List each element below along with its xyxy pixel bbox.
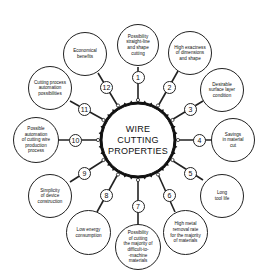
hub-title: WIRE CUTTING PROPERTIES <box>108 124 168 157</box>
property-bubble-4: Savings in material cut <box>211 118 255 162</box>
property-bubble-9: Simplicity of device construction <box>28 174 72 218</box>
property-text: Possibility of cutting the majority of d… <box>121 230 156 264</box>
number-marker-1: 1 <box>132 71 145 84</box>
number-marker-3: 3 <box>184 103 197 116</box>
property-text: Possibility straight-line and shape cutt… <box>123 34 153 56</box>
number-marker-12: 12 <box>100 81 113 94</box>
property-text: High exactness of dimensions and shape <box>171 45 208 62</box>
number-marker-8: 8 <box>100 189 113 202</box>
property-bubble-3: Desirable surface layer condition <box>200 68 244 112</box>
property-bubble-8: Low energy consumption <box>66 210 111 255</box>
property-bubble-11: Cutting process automation possibilities <box>28 66 72 110</box>
number-marker-9: 9 <box>78 167 91 180</box>
property-bubble-12: Economical benefits <box>63 32 107 76</box>
property-bubble-1: Possibility straight-line and shape cutt… <box>117 24 159 66</box>
property-bubble-10: Possible automation of cutting wire prod… <box>13 117 59 163</box>
number-marker-7: 7 <box>132 200 145 213</box>
property-text: Economical benefits <box>70 48 100 59</box>
property-text: Possible automation of cutting wire prod… <box>19 126 53 154</box>
property-text: Low energy consumption <box>72 227 104 238</box>
number-marker-5: 5 <box>184 167 197 180</box>
property-text: Cutting process automation possibilities <box>31 80 69 97</box>
number-marker-11: 11 <box>78 103 91 116</box>
property-bubble-2: High exactness of dimensions and shape <box>168 31 212 75</box>
number-marker-2: 2 <box>163 81 176 94</box>
property-bubble-5: Long tool life <box>200 174 244 218</box>
hub-center: WIRE CUTTING PROPERTIES <box>102 104 174 176</box>
property-bubble-7: Possibility of cutting the majority of d… <box>115 224 161 270</box>
property-bubble-6: High metal removal rate for the majority… <box>163 210 208 255</box>
number-marker-10: 10 <box>69 134 82 147</box>
property-text: Desirable surface layer condition <box>206 82 238 99</box>
number-marker-6: 6 <box>163 189 176 202</box>
property-text: Savings in material cut <box>219 132 246 149</box>
property-text: Simplicity of device construction <box>35 188 66 205</box>
property-text: High metal removal rate for the majority… <box>167 221 203 243</box>
number-marker-4: 4 <box>193 134 206 147</box>
property-text: Long tool life <box>212 190 233 201</box>
